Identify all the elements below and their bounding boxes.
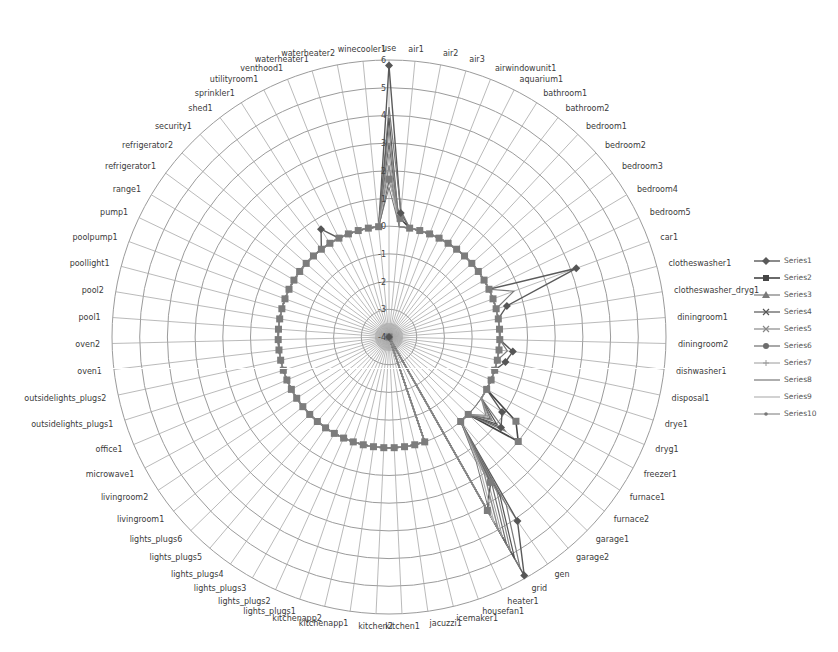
category-label: air1 [408, 45, 424, 54]
legend-item[interactable]: Series6 [752, 337, 838, 354]
data-marker [276, 315, 283, 322]
legend-label: Series2 [784, 273, 812, 282]
category-label: airwindowunit1 [495, 64, 556, 73]
category-label: jacuzzi1 [429, 619, 462, 628]
category-label: bathroom2 [565, 104, 609, 113]
data-marker [421, 438, 428, 445]
category-label: grid [532, 584, 548, 593]
category-label: car1 [660, 233, 678, 242]
data-marker [283, 377, 290, 384]
data-marker [326, 240, 333, 247]
data-marker [494, 357, 501, 364]
data-marker [475, 268, 482, 275]
legend-item[interactable]: Series10 [752, 405, 838, 422]
data-marker [340, 435, 347, 442]
data-marker [483, 386, 490, 393]
category-label: waterheater2 [281, 49, 335, 58]
legend-swatch-icon [752, 290, 782, 300]
data-marker [318, 246, 325, 253]
data-marker [493, 305, 500, 312]
category-label: heater1 [507, 597, 538, 606]
category-label: poolpump1 [72, 233, 117, 242]
data-marker [426, 230, 433, 237]
category-label: security1 [155, 122, 192, 131]
legend-label: Series8 [784, 375, 812, 384]
legend-item[interactable]: Series3 [752, 286, 838, 303]
category-label: oven2 [75, 340, 100, 349]
data-marker [293, 395, 300, 402]
legend-item[interactable]: Series9 [752, 388, 838, 405]
category-label: air2 [443, 49, 459, 58]
legend-label: Series1 [784, 256, 812, 265]
tick-label: 1 [381, 195, 386, 204]
data-marker [365, 225, 372, 232]
category-label: garage2 [576, 553, 609, 562]
data-marker [416, 227, 423, 234]
legend-item[interactable]: Series8 [752, 371, 838, 388]
tick-label: -1 [378, 250, 386, 259]
data-marker [484, 507, 491, 514]
data-marker [453, 246, 460, 253]
tick-label: -3 [378, 305, 386, 314]
data-marker [481, 277, 488, 284]
category-label: kitchen2 [358, 622, 393, 631]
category-label: outsidelights_plugs1 [31, 420, 113, 429]
legend-swatch-icon [752, 392, 782, 402]
data-marker [335, 235, 342, 242]
data-marker [277, 357, 284, 364]
data-marker [306, 411, 313, 418]
category-label: disposal1 [672, 394, 710, 403]
data-marker [401, 443, 408, 450]
tick-label: 3 [381, 139, 386, 148]
data-marker [314, 418, 321, 425]
legend-item[interactable]: Series1 [752, 252, 838, 269]
category-label: gen [554, 570, 569, 579]
category-label: venthood1 [240, 64, 283, 73]
category-label: aquarium1 [520, 75, 563, 84]
legend-item[interactable]: Series4 [752, 303, 838, 320]
data-marker [485, 286, 492, 293]
category-label: lights_plugs2 [218, 597, 271, 606]
data-marker [310, 252, 317, 259]
data-marker [445, 240, 452, 247]
radar-chart: -4-3-2-10123456 useair1air2air3airwindow… [0, 0, 838, 652]
category-label: lights_plugs6 [130, 535, 183, 544]
category-label: dryg1 [655, 445, 678, 454]
legend-label: Series10 [784, 409, 817, 418]
scan-artifact-line [0, 368, 838, 369]
data-marker [303, 260, 310, 267]
category-label: refrigerator1 [105, 162, 156, 171]
tick-label: 5 [381, 84, 386, 93]
category-label: furnace1 [630, 493, 665, 502]
legend-label: Series9 [784, 392, 812, 401]
tick-label: -2 [378, 278, 386, 287]
category-label: utilityroom1 [210, 75, 259, 84]
data-marker [496, 326, 503, 333]
data-marker [350, 438, 357, 445]
data-marker [461, 252, 468, 259]
legend-label: Series4 [784, 307, 812, 316]
data-marker [286, 286, 293, 293]
data-marker [496, 346, 503, 353]
category-label: bedroom3 [622, 162, 663, 171]
data-marker [360, 441, 367, 448]
category-label: bedroom2 [605, 141, 646, 150]
chart-legend: Series1Series2Series3Series4Series5Serie… [752, 252, 838, 422]
radar-series [275, 62, 581, 580]
data-marker [345, 230, 352, 237]
category-label: sprinkler1 [195, 89, 235, 98]
data-marker [465, 411, 472, 418]
data-marker [457, 418, 464, 425]
data-marker [391, 444, 398, 451]
legend-swatch-icon [752, 341, 782, 351]
data-marker [490, 295, 497, 302]
legend-item[interactable]: Series5 [752, 320, 838, 337]
tick-label: 6 [381, 56, 386, 65]
legend-label: Series6 [784, 341, 812, 350]
data-marker [275, 326, 282, 333]
category-label: lights_plugs4 [171, 570, 224, 579]
tick-label: 2 [381, 167, 386, 176]
legend-item[interactable]: Series2 [752, 269, 838, 286]
legend-item[interactable]: Series7 [752, 354, 838, 371]
category-label: shed1 [188, 104, 212, 113]
